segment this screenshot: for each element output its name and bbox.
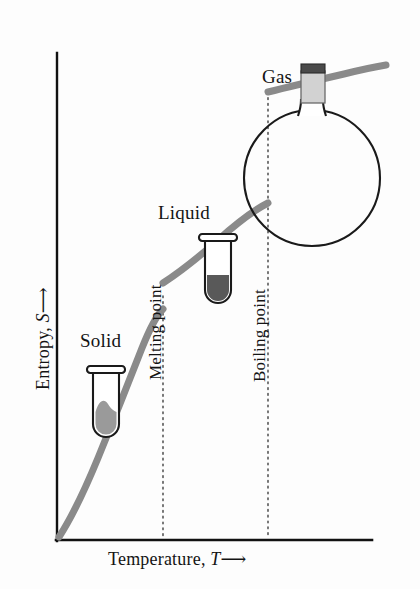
x-axis-label-text: Temperature, [108, 549, 210, 569]
liquid-test-tube [199, 234, 237, 303]
flask-stopper-cap [301, 64, 325, 73]
phase-label-gas: Gas [262, 66, 292, 88]
y-axis-label: Entropy, S⟶ [32, 287, 54, 390]
y-axis-label-text: Entropy, [33, 322, 53, 390]
x-axis-label-variable: T [210, 549, 220, 569]
melting-point-label: Melting point [146, 284, 166, 380]
phase-label-solid: Solid [80, 330, 121, 352]
flask-stopper-body [301, 71, 325, 103]
x-axis-arrow-icon: ⟶ [221, 549, 247, 569]
flask-bulb [244, 110, 380, 246]
phase-label-liquid: Liquid [158, 202, 210, 224]
boiling-point-label: Boiling point [250, 289, 270, 382]
solid-test-tube [87, 366, 125, 437]
gas-flask [244, 64, 380, 246]
entropy-temperature-figure: Solid Liquid Gas Melting point Boiling p… [0, 0, 420, 589]
liquid-sample-fill [207, 275, 229, 301]
solid-tube-rim [87, 366, 125, 373]
chart-canvas [0, 0, 420, 589]
y-axis-label-variable: S [33, 313, 53, 322]
x-axis-label: Temperature, T⟶ [108, 548, 247, 570]
y-axis-arrow-icon: ⟶ [33, 287, 53, 313]
liquid-tube-rim [199, 234, 237, 241]
